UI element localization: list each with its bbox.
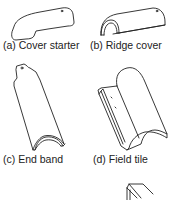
figure-end-band: (c) End band <box>0 60 87 170</box>
figure-ridge-cover: (b) Ridge cover <box>87 0 174 60</box>
figure-field-tile: (d) Field tile <box>87 60 174 170</box>
caption-b: (b) Ridge cover <box>90 39 162 51</box>
partial-tile-drawing <box>87 170 174 200</box>
figure-cover-starter: (a) Cover starter <box>0 0 87 60</box>
field-tile-drawing <box>87 60 174 155</box>
caption-c: (c) End band <box>3 153 63 165</box>
caption-a: (a) Cover starter <box>3 39 79 51</box>
caption-d: (d) Field tile <box>93 153 148 165</box>
figure-partial-e <box>87 170 174 200</box>
end-band-drawing <box>0 60 87 155</box>
